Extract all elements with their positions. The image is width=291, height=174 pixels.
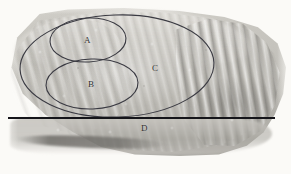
specimen-figure: A B C D <box>0 0 291 174</box>
region-label-d: D <box>141 124 148 133</box>
region-label-b: B <box>88 80 94 89</box>
region-label-a: A <box>84 36 91 45</box>
annotation-overlay <box>0 0 291 174</box>
region-label-c: C <box>152 64 158 73</box>
